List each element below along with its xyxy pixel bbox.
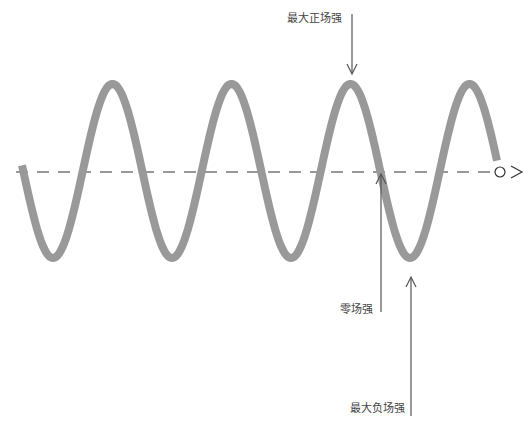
arrow-right-icon [511, 166, 522, 178]
max-positive-label: 最大正场强 [287, 12, 342, 26]
sine-wave [22, 84, 497, 258]
max-negative-arrow [406, 277, 416, 416]
max-negative-label: 最大负场强 [350, 402, 405, 416]
zero-label: 零场强 [340, 303, 373, 317]
circle-icon [495, 167, 505, 177]
max-positive-arrow [347, 14, 357, 74]
sine-wave-diagram [0, 0, 532, 427]
